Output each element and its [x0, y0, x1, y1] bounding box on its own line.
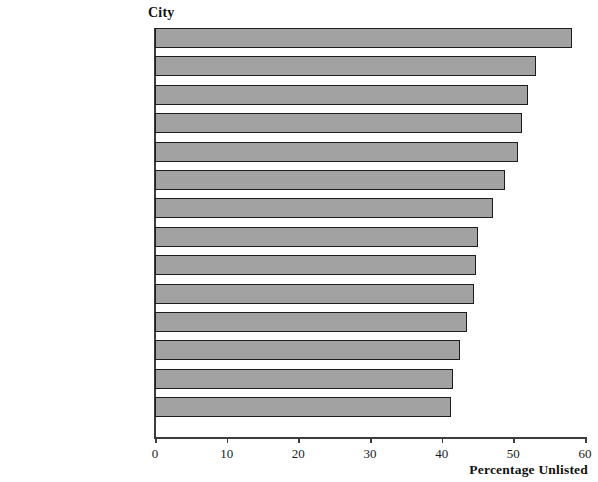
bar-row: Anaheim–Santa Ana, CA: [155, 312, 585, 332]
bar-row: San Francisco, CA: [155, 340, 585, 360]
bar-row: Oakland, CA: [155, 113, 585, 133]
bar-row: Sacramento, CA: [155, 198, 585, 218]
bar-row: Riverside–San Bernadino, CA: [155, 227, 585, 247]
bar[interactable]: [155, 85, 528, 105]
bar-row: Las Vegas, NV: [155, 28, 585, 48]
x-axis-tick-label: 50: [493, 446, 533, 462]
x-axis-title: Percentage Unlisted: [469, 462, 588, 478]
x-axis-tick-label: 40: [422, 446, 462, 462]
x-axis-tick: [155, 437, 157, 443]
bar-row: Los Angeles–Long Beach, CA: [155, 56, 585, 76]
x-axis-tick-label: 0: [135, 446, 175, 462]
bar[interactable]: [155, 312, 467, 332]
x-axis-tick: [442, 437, 444, 443]
x-axis-tick-label: 10: [207, 446, 247, 462]
plot-area: Las Vegas, NVLos Angeles–Long Beach, CAJ…: [155, 28, 585, 438]
bar-row: Fresno, CA: [155, 142, 585, 162]
bar[interactable]: [155, 28, 572, 48]
bar-row: Tuscon, AZ: [155, 369, 585, 389]
bar-chart: City Las Vegas, NVLos Angeles–Long Beach…: [0, 0, 598, 482]
bar[interactable]: [155, 340, 460, 360]
x-axis-tick: [370, 437, 372, 443]
bar[interactable]: [155, 369, 453, 389]
bar[interactable]: [155, 198, 493, 218]
bar[interactable]: [155, 397, 451, 417]
x-axis-tick: [585, 437, 587, 443]
bar-row: Oxnard–Ventura, CA: [155, 284, 585, 304]
bar-row: Bakersfield, CA: [155, 255, 585, 275]
y-axis-title: City: [148, 5, 174, 21]
x-axis-tick-label: 60: [565, 446, 598, 462]
x-axis-tick-label: 30: [350, 446, 390, 462]
bar[interactable]: [155, 56, 536, 76]
x-axis-tick: [227, 437, 229, 443]
bar[interactable]: [155, 142, 518, 162]
bar-row: San Diego, CA: [155, 397, 585, 417]
bar-row: San Jose, CA: [155, 170, 585, 190]
x-axis-tick: [298, 437, 300, 443]
x-axis-tick-label: 20: [278, 446, 318, 462]
bar[interactable]: [155, 255, 476, 275]
bar[interactable]: [155, 113, 522, 133]
x-axis-tick: [513, 437, 515, 443]
bar[interactable]: [155, 284, 474, 304]
bar-row: Jersey City, NJ: [155, 85, 585, 105]
bar[interactable]: [155, 170, 505, 190]
bar[interactable]: [155, 227, 478, 247]
